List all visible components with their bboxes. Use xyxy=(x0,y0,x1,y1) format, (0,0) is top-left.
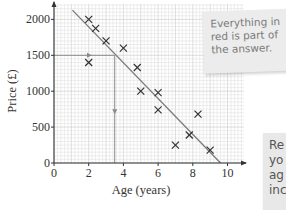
answer-note: Everything in red is part of the answer. xyxy=(202,8,286,73)
reading-lines xyxy=(54,53,117,163)
line-of-best-fit xyxy=(72,10,220,163)
note-line: inc xyxy=(269,183,286,198)
data-point-marker xyxy=(195,111,202,118)
y-axis-label: Price (£) xyxy=(5,69,19,112)
note-line: the answer. xyxy=(211,40,286,56)
y-tick-label: 0 xyxy=(44,156,50,170)
y-tick-label: 2000 xyxy=(26,12,50,26)
x-tick-label: 6 xyxy=(155,166,161,180)
x-axis-label: Age (years) xyxy=(112,183,171,197)
x-tick-label: 2 xyxy=(86,166,92,180)
data-points xyxy=(85,16,213,154)
side-note: Re yo ag inc xyxy=(263,133,286,210)
note-line: Re xyxy=(269,138,286,153)
note-line: yo xyxy=(269,153,286,168)
y-tick-label: 500 xyxy=(32,120,50,134)
x-tick-label: 0 xyxy=(51,166,57,180)
x-tick-label: 10 xyxy=(222,166,234,180)
x-tick-label: 4 xyxy=(120,166,126,180)
y-tick-label: 1000 xyxy=(26,84,50,98)
y-tick-label: 1500 xyxy=(26,48,50,62)
x-tick-label: 8 xyxy=(190,166,196,180)
note-line: red is part of xyxy=(211,27,286,43)
note-line: ag xyxy=(269,168,286,183)
